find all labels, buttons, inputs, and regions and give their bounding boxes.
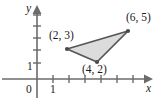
vertex-dot-2-3 — [65, 47, 69, 51]
vertex-label-6-5: (6, 5) — [126, 12, 151, 24]
origin-label: 0 — [26, 84, 32, 96]
vertex-dot-6-5 — [126, 29, 130, 33]
coordinate-plane-figure: y x 0 1 1 (2, 3) (4, 2) (6, 5) — [0, 0, 166, 102]
y-axis-arrow-icon — [33, 5, 42, 14]
vertex-label-4-2: (4, 2) — [82, 64, 107, 76]
x-unit-label: 1 — [50, 84, 56, 96]
y-axis-label: y — [26, 3, 31, 15]
x-axis-label: x — [146, 83, 151, 95]
triangle-shape — [67, 31, 128, 62]
vertex-label-2-3: (2, 3) — [49, 30, 74, 42]
y-unit-label: 1 — [27, 61, 33, 73]
